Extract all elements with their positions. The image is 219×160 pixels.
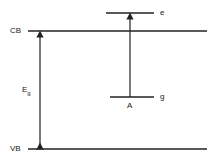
cb-label: CB xyxy=(10,27,21,35)
energy-level-diagram xyxy=(0,0,219,160)
transition-label: A xyxy=(127,102,132,110)
eg-label: Eg xyxy=(22,86,31,97)
excited-label: e xyxy=(160,9,164,17)
ground-label: g xyxy=(160,93,164,101)
vb-label: VB xyxy=(10,145,21,153)
